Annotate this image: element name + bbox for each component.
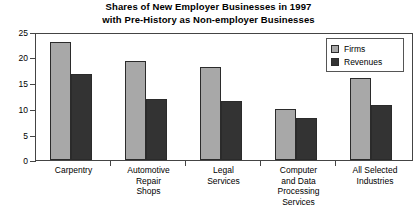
chart-title: Shares of New Employer Businesses in 199… [0,1,417,26]
y-tick-label-5: 5 [0,131,28,141]
category-label-automotive-repair-shops: Automotive Repair Shops [111,165,186,197]
category-label-all-selected-industries: All Selected Industries [336,165,414,186]
y-tick-label-15: 15 [0,79,28,89]
bar-legal-services-revenues [221,101,242,160]
y-tick-mark-0 [30,161,35,162]
y-tick-label-20: 20 [0,53,28,63]
chart-title-line-2: with Pre-History as Non-employer Busines… [0,14,417,27]
category-label-legal-services: Legal Services [186,165,261,186]
y-tick-label-25: 25 [0,28,28,38]
chart-title-line-1: Shares of New Employer Businesses in 199… [0,1,417,14]
legend-swatch-revenues-icon [331,58,339,66]
category-label-carpentry: Carpentry [36,165,111,176]
bar-carpentry-firms [50,42,71,160]
y-tick-label-10: 10 [0,105,28,115]
category-label-computer-and-data-processing-services: Computer and Data Processing Services [261,165,336,207]
bar-legal-services-firms [200,67,221,160]
legend-item-revenues[interactable]: Revenues [331,55,399,68]
bar-automotive-repair-shops-firms [125,61,146,160]
chart-figure: Shares of New Employer Businesses in 199… [0,0,417,211]
legend-label-revenues: Revenues [344,57,382,67]
bar-all-selected-industries-revenues [371,105,392,160]
bar-carpentry-revenues [71,74,92,160]
bar-all-selected-industries-firms [350,78,371,160]
chart-legend: Firms Revenues [326,38,404,72]
legend-item-firms[interactable]: Firms [331,42,399,55]
bar-automotive-repair-shops-revenues [146,99,167,160]
legend-swatch-firms-icon [331,45,339,53]
legend-label-firms: Firms [344,44,365,54]
y-tick-label-0: 0 [0,156,28,166]
bar-computer-and-data-processing-services-revenues [296,118,317,160]
bar-computer-and-data-processing-services-firms [275,109,296,160]
